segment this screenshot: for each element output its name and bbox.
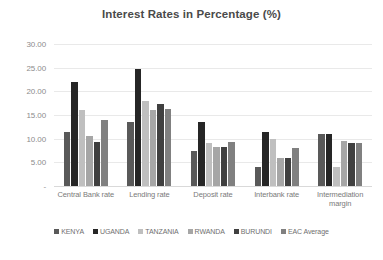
legend-item[interactable]: RWANDA	[188, 228, 225, 235]
bar[interactable]	[79, 110, 86, 186]
legend-swatch-icon	[281, 229, 286, 234]
y-axis-tick: -	[43, 182, 46, 191]
bar-group	[245, 44, 309, 186]
bar[interactable]	[191, 151, 198, 187]
x-axis-label: Lending rate	[118, 190, 182, 208]
bar[interactable]	[348, 143, 355, 186]
bar[interactable]	[341, 141, 348, 186]
x-axis-label: Central Bank rate	[54, 190, 118, 208]
y-axis-tick: 10.00	[26, 134, 46, 143]
plot-area	[54, 44, 372, 186]
legend-label: UGANDA	[100, 228, 129, 235]
y-axis-tick: 30.00	[26, 40, 46, 49]
legend-swatch-icon	[138, 229, 143, 234]
x-axis-label: Deposit rate	[181, 190, 245, 208]
bar[interactable]	[326, 134, 333, 186]
bar[interactable]	[285, 158, 292, 186]
bar[interactable]	[64, 132, 71, 186]
y-axis-tick: 20.00	[26, 87, 46, 96]
bar[interactable]	[206, 143, 213, 186]
bar[interactable]	[221, 147, 228, 186]
legend-label: TANZANIA	[145, 228, 178, 235]
legend-label: BURUNDI	[241, 228, 272, 235]
legend-item[interactable]: UGANDA	[93, 228, 129, 235]
bar[interactable]	[213, 147, 220, 186]
bar-group	[54, 44, 118, 186]
bar[interactable]	[157, 104, 164, 186]
bar-group	[118, 44, 182, 186]
bar[interactable]	[228, 142, 235, 186]
y-axis-labels: 30.0025.0020.0015.0010.005.00-	[0, 0, 50, 200]
legend-swatch-icon	[54, 229, 59, 234]
bar[interactable]	[101, 120, 108, 186]
legend-item[interactable]: BURUNDI	[234, 228, 272, 235]
bar[interactable]	[150, 110, 157, 186]
bar-group	[308, 44, 372, 186]
y-axis-tick: 25.00	[26, 63, 46, 72]
x-axis-labels: Central Bank rateLending rateDeposit rat…	[54, 190, 372, 208]
legend-item[interactable]: TANZANIA	[138, 228, 178, 235]
bar[interactable]	[71, 82, 78, 186]
bar[interactable]	[198, 122, 205, 186]
legend-swatch-icon	[188, 229, 193, 234]
legend-label: KENYA	[61, 228, 84, 235]
bar-groups	[54, 44, 372, 186]
bar[interactable]	[142, 101, 149, 186]
chart-title: Interest Rates in Percentage (%)	[0, 8, 383, 20]
legend-label: EAC Average	[288, 228, 329, 235]
bar[interactable]	[270, 139, 277, 186]
bar[interactable]	[292, 148, 299, 186]
legend-label: RWANDA	[195, 228, 225, 235]
bar[interactable]	[94, 142, 101, 186]
legend-item[interactable]: EAC Average	[281, 228, 329, 235]
bar[interactable]	[277, 158, 284, 186]
bar-group	[181, 44, 245, 186]
legend-swatch-icon	[234, 229, 239, 234]
x-axis-label: Intermediation margin	[308, 190, 372, 208]
y-axis-tick: 5.00	[31, 158, 46, 167]
x-axis-label: Interbank rate	[245, 190, 309, 208]
legend-swatch-icon	[93, 229, 98, 234]
bar[interactable]	[86, 136, 93, 186]
y-axis-tick: 15.00	[26, 111, 46, 120]
bar[interactable]	[255, 167, 262, 186]
bar[interactable]	[135, 69, 142, 186]
bar[interactable]	[262, 132, 269, 186]
bar[interactable]	[333, 167, 340, 186]
bar[interactable]	[165, 109, 172, 186]
legend-item[interactable]: KENYA	[54, 228, 84, 235]
axis-baseline	[54, 186, 372, 187]
chart-legend: KENYAUGANDATANZANIARWANDABURUNDIEAC Aver…	[0, 228, 383, 235]
bar-chart: Interest Rates in Percentage (%) 30.0025…	[0, 0, 383, 260]
bar[interactable]	[127, 122, 134, 186]
bar[interactable]	[318, 134, 325, 186]
bar[interactable]	[356, 143, 363, 186]
